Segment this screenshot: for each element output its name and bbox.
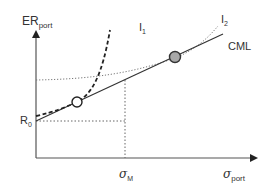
i2-label: I2: [221, 13, 228, 27]
cml-label: CML: [228, 40, 251, 52]
i2-curve: [36, 26, 218, 80]
x-axis-label: σport: [223, 167, 246, 183]
cml-diagram: ERport R0 σM σport CML I1 I2: [0, 0, 267, 190]
i1-label: I1: [139, 21, 146, 35]
optimal-portfolio-point: [72, 97, 82, 107]
y-axis-label: ERport: [22, 14, 53, 30]
market-portfolio-point: [170, 52, 181, 63]
r0-label: R0: [20, 114, 32, 128]
sigma-m-label: σM: [119, 167, 133, 182]
